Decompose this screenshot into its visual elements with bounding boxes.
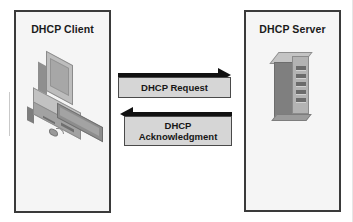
server-tower-icon: [274, 52, 322, 136]
server-tower-front-face: [292, 56, 309, 114]
monitor-screen: [50, 58, 69, 96]
dhcp-exchange-diagram: DHCP Client DHCP Server: [0, 0, 353, 222]
acknowledgment-label-box: DHCP Acknowledgment: [124, 116, 232, 146]
acknowledgment-label-line-1: DHCP: [165, 120, 192, 131]
endpoint-panel-server: DHCP Server: [244, 10, 341, 212]
request-label-box: DHCP Request: [118, 77, 231, 98]
scan-edge-artifact-left: [9, 92, 10, 136]
server-panel-title: DHCP Server: [246, 23, 339, 35]
server-drive-bay: [296, 82, 306, 87]
server-drive-bay: [296, 98, 306, 103]
server-drive-bay: [296, 74, 306, 79]
endpoint-panel-client: DHCP Client: [14, 10, 111, 213]
desktop-computer-icon: [27, 56, 103, 142]
acknowledgment-label-line-2: Acknowledgment: [139, 131, 218, 142]
server-drive-bay: [296, 66, 306, 71]
server-tower-left-face: [274, 62, 293, 120]
server-drive-bay: [296, 90, 306, 95]
request-label-text: DHCP Request: [138, 82, 211, 93]
acknowledgment-label-text: DHCP Acknowledgment: [136, 120, 221, 142]
client-panel-title: DHCP Client: [16, 23, 109, 35]
server-tower-base: [271, 114, 311, 121]
